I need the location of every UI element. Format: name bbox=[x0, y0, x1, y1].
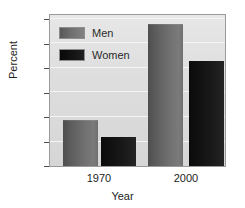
bar-women-1970 bbox=[101, 137, 136, 166]
bar-chart-figure: Men Women 0 5 10 15 20 25 30 1970 2000 P… bbox=[0, 0, 245, 208]
ytick-mark-25 bbox=[44, 44, 49, 45]
ytick-mark-20 bbox=[44, 68, 49, 69]
men-swatch-icon bbox=[59, 27, 85, 39]
y-axis-label: Percent bbox=[7, 25, 19, 95]
x-axis-label: Year bbox=[0, 190, 245, 202]
ytick-mark-10 bbox=[44, 117, 49, 118]
women-swatch-icon bbox=[59, 49, 85, 61]
legend-label-men: Men bbox=[92, 27, 113, 39]
ytick-mark-30 bbox=[44, 19, 49, 20]
xtick-label-2000: 2000 bbox=[156, 172, 216, 184]
plot-area: Men Women bbox=[49, 14, 226, 167]
ytick-mark-15 bbox=[44, 93, 49, 94]
bar-women-2000 bbox=[189, 61, 224, 167]
ytick-mark-0 bbox=[44, 166, 49, 167]
bar-men-2000 bbox=[148, 24, 183, 166]
bar-men-1970 bbox=[63, 120, 98, 166]
legend: Men Women bbox=[59, 25, 130, 69]
legend-item-men: Men bbox=[59, 25, 130, 41]
xtick-label-1970: 1970 bbox=[69, 172, 129, 184]
gridline-30 bbox=[50, 18, 225, 19]
ytick-mark-5 bbox=[44, 142, 49, 143]
legend-item-women: Women bbox=[59, 47, 130, 63]
legend-label-women: Women bbox=[92, 49, 130, 61]
